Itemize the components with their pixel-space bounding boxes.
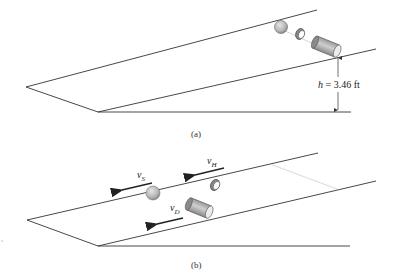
hoop-icon	[209, 178, 222, 192]
incline-front-edge	[98, 181, 376, 246]
sphere-icon	[146, 186, 160, 200]
sphere-icon	[275, 21, 288, 34]
caption-a: (a)	[191, 129, 201, 139]
velocity-arrow-cylinder	[157, 218, 183, 224]
caption-b: (b)	[191, 260, 202, 270]
stray-mark	[1, 240, 2, 241]
incline-left-edge	[27, 220, 98, 246]
incline-left-edge	[26, 87, 98, 112]
incline-top-edge	[26, 10, 317, 87]
start-guide-line	[270, 164, 337, 189]
label-vH: vH	[207, 155, 217, 169]
panel-a: h = 3.46 ft (a)	[26, 10, 376, 139]
label-vD: vD	[170, 202, 180, 216]
velocity-arrow-hoop	[195, 168, 224, 175]
incline-diagram: h = 3.46 ft (a) vS	[0, 0, 395, 280]
cylinder-icon	[310, 35, 343, 58]
height-label: h = 3.46 ft	[318, 79, 360, 90]
panel-b: vS vH vD (b)	[1, 153, 376, 270]
cylinder-icon	[184, 197, 215, 220]
hoop-icon	[294, 27, 306, 40]
label-vS: vS	[137, 169, 145, 183]
